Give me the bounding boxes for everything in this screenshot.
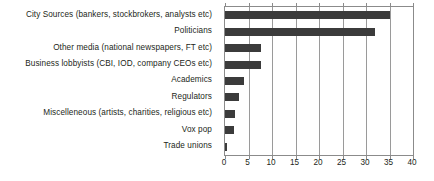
x-tick-label: 40: [407, 158, 416, 168]
category-label-row: Trade unions: [0, 138, 218, 154]
category-label: Other media (national newspapers, FT etc…: [53, 43, 212, 52]
x-tick-label: 10: [266, 158, 275, 168]
bar-chart: City Sources (bankers, stockbrokers, ana…: [0, 0, 434, 181]
category-label: Business lobbyists (CBI, IOD, company CE…: [25, 59, 212, 68]
category-label: Trade unions: [164, 141, 212, 150]
category-label-row: Politicians: [0, 22, 218, 38]
bar-row: [225, 89, 413, 105]
x-tick-label: 30: [360, 158, 369, 168]
category-label: Politicians: [174, 26, 212, 35]
category-label-column: City Sources (bankers, stockbrokers, ana…: [0, 6, 218, 154]
bar-row: [225, 122, 413, 138]
category-label-row: Vox pop: [0, 121, 218, 137]
category-label-row: Regulators: [0, 88, 218, 104]
category-label: Miscelleneous (artists, charities, relig…: [43, 108, 212, 117]
category-label-row: Miscelleneous (artists, charities, relig…: [0, 105, 218, 121]
category-label-row: Business lobbyists (CBI, IOD, company CE…: [0, 55, 218, 71]
category-label: Regulators: [172, 92, 212, 101]
bar: [225, 77, 244, 85]
bar: [225, 126, 234, 134]
bar: [225, 44, 261, 52]
category-label-row: Academics: [0, 72, 218, 88]
bar: [225, 110, 235, 118]
bar: [225, 61, 261, 69]
bar-row: [225, 7, 413, 23]
category-label-row: City Sources (bankers, stockbrokers, ana…: [0, 6, 218, 22]
x-tick-label: 20: [313, 158, 322, 168]
x-axis-tick-labels: 0510152025303540: [224, 158, 412, 172]
x-tick-label: 25: [337, 158, 346, 168]
bar-row: [225, 23, 413, 39]
x-tick-label: 5: [245, 158, 250, 168]
bar-row: [225, 40, 413, 56]
category-label: Academics: [171, 75, 212, 84]
category-label: Vox pop: [182, 125, 212, 134]
bar: [225, 93, 239, 101]
x-tick-label: 0: [222, 158, 227, 168]
bar-row: [225, 73, 413, 89]
plot-area: [224, 6, 414, 156]
bars-layer: [225, 7, 413, 155]
bar: [225, 28, 375, 36]
category-label-row: Other media (national newspapers, FT etc…: [0, 39, 218, 55]
bar: [225, 143, 227, 151]
bar-row: [225, 139, 413, 155]
bar-row: [225, 106, 413, 122]
bar-row: [225, 56, 413, 72]
x-tick-label: 35: [384, 158, 393, 168]
x-tick-label: 15: [290, 158, 299, 168]
category-label: City Sources (bankers, stockbrokers, ana…: [26, 10, 212, 19]
bar: [225, 11, 390, 19]
axis-tick: [413, 3, 414, 7]
